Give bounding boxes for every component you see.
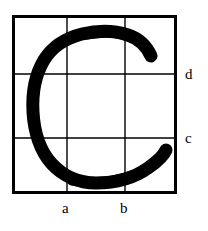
grid-label-a: a	[62, 201, 69, 216]
grid-label-c: c	[185, 131, 192, 146]
figure-canvas	[0, 0, 208, 231]
handwritten-character-figure: a b d c	[0, 0, 208, 231]
grid-label-d: d	[185, 67, 193, 82]
letter-c-top-thickening	[86, 32, 133, 38]
grid-label-b: b	[120, 201, 128, 216]
letter-c-bottom-thickening	[72, 176, 132, 182]
